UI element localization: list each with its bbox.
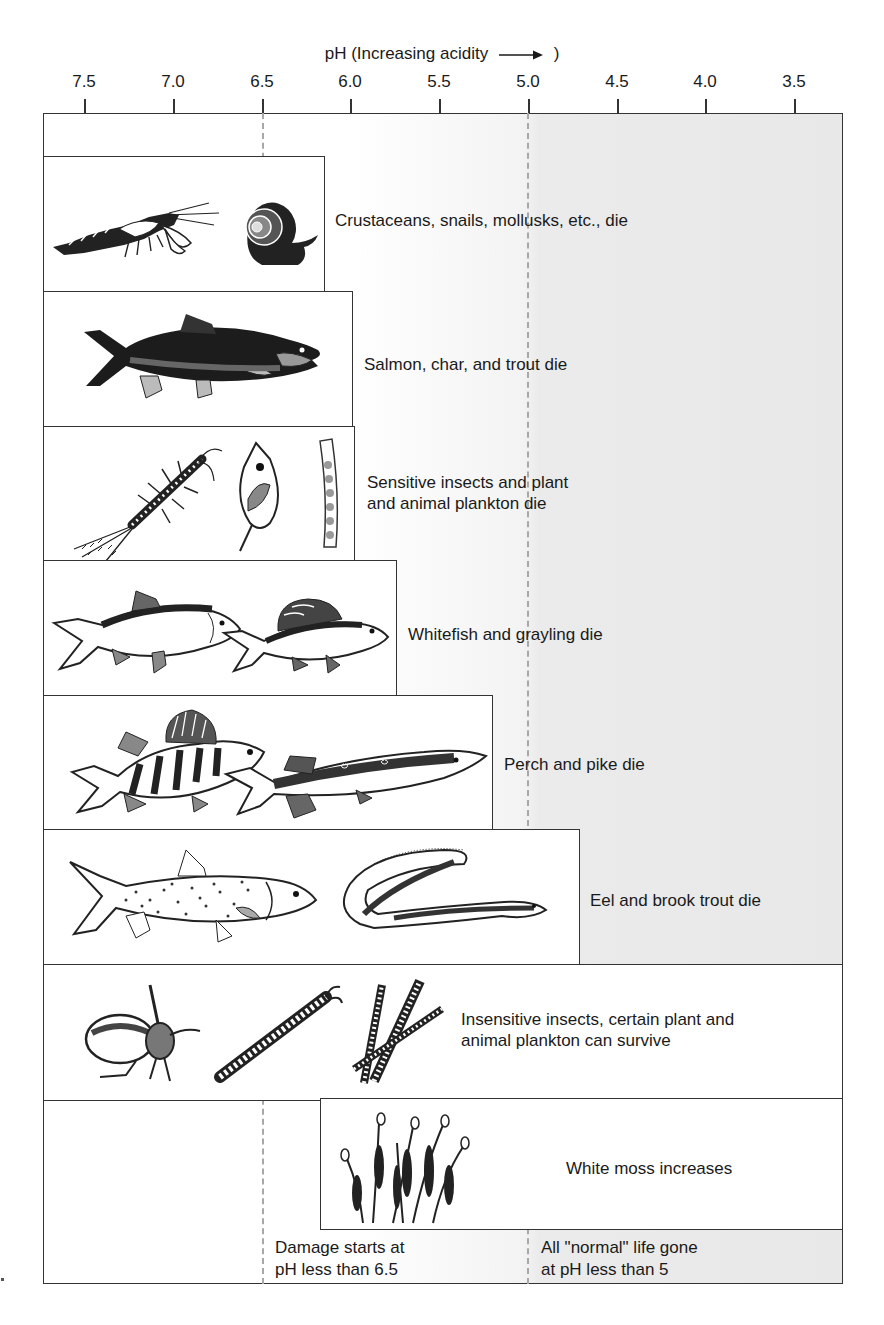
tick-mark [528, 99, 530, 113]
row-label-whitefish: Whitefish and grayling die [408, 624, 603, 645]
algae-filament-icon [312, 435, 352, 555]
salmon-icon [80, 310, 330, 410]
tick-mark [705, 99, 707, 113]
tick-mark [84, 99, 86, 113]
row-label-crustaceans: Crustaceans, snails, mollusks, etc., die [335, 210, 628, 231]
tick-label: 6.0 [325, 72, 375, 92]
mayfly-nymph-icon [72, 445, 222, 565]
tick-label: 7.5 [59, 72, 109, 92]
row-panel-eel-trout [43, 829, 580, 966]
tick-label: 6.5 [237, 72, 287, 92]
tick-mark [350, 99, 352, 113]
note-line: at pH less than 5 [541, 1259, 698, 1281]
row-panel-whitefish [43, 560, 397, 697]
row-panel-perch-pike [43, 695, 493, 832]
scan-artifact [1, 1278, 4, 1281]
note-line: pH less than 6.5 [275, 1259, 404, 1281]
row-label-sensitive-insects: Sensitive insects and plant and animal p… [367, 472, 568, 514]
tick-mark [173, 99, 175, 113]
larva-icon [212, 977, 352, 1087]
grayling-icon [222, 585, 392, 675]
tick-label: 4.5 [592, 72, 642, 92]
row-panel-sensitive-insects [43, 426, 355, 563]
label-line: and animal plankton die [367, 493, 568, 514]
note-line: Damage starts at [275, 1237, 404, 1259]
note-line: All "normal" life gone [541, 1237, 698, 1259]
tick-label: 5.5 [414, 72, 464, 92]
note-life-gone-threshold: All "normal" life gone at pH less than 5 [541, 1237, 698, 1281]
label-line: Insensitive insects, certain plant and [461, 1009, 734, 1030]
note-damage-threshold: Damage starts at pH less than 6.5 [275, 1237, 404, 1281]
plankton-filaments-icon [334, 973, 464, 1093]
pike-icon [224, 734, 494, 824]
tick-mark [617, 99, 619, 113]
right-arrow-icon [497, 49, 545, 61]
brook-trout-icon [66, 846, 316, 946]
tick-mark [262, 99, 264, 113]
row-panel-salmon [43, 291, 353, 428]
row-label-white-moss: White moss increases [566, 1158, 732, 1179]
axis-title: pH (Increasing acidity ) [0, 44, 884, 64]
tick-mark [439, 99, 441, 113]
label-line: Sensitive insects and plant [367, 472, 568, 493]
tick-label: 5.0 [503, 72, 553, 92]
tick-label: 4.0 [680, 72, 730, 92]
row-label-eel-trout: Eel and brook trout die [590, 890, 761, 911]
crayfish-icon [49, 195, 229, 275]
water-beetle-icon [80, 979, 210, 1089]
tick-mark [794, 99, 796, 113]
tick-label: 7.0 [148, 72, 198, 92]
whitefish-icon [52, 585, 242, 675]
eel-icon [334, 844, 554, 944]
row-label-perch-pike: Perch and pike die [504, 754, 645, 775]
daphnia-icon [230, 439, 290, 559]
row-label-salmon: Salmon, char, and trout die [364, 354, 567, 375]
snail-icon [234, 195, 324, 265]
tick-label: 3.5 [769, 72, 819, 92]
row-label-insensitive-insects: Insensitive insects, certain plant and a… [461, 1009, 734, 1051]
row-panel-crustaceans [43, 156, 325, 293]
axis-title-text: pH (Increasing acidity [325, 44, 488, 63]
axis-title-close: ) [554, 44, 560, 63]
label-line: animal plankton can survive [461, 1030, 734, 1051]
white-moss-icon [333, 1107, 483, 1227]
